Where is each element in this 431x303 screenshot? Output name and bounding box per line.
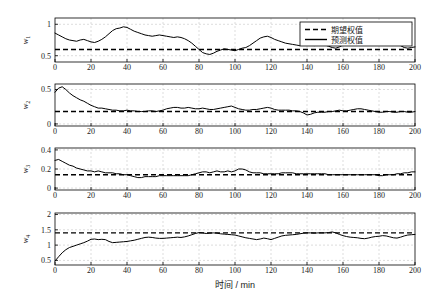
x-tick-label: 80	[195, 63, 203, 72]
x-tick-label: 20	[87, 266, 95, 275]
x-tick-label: 40	[123, 63, 131, 72]
x-tick-label: 80	[195, 266, 203, 275]
x-tick-label: 0	[53, 191, 57, 200]
panel-w2: 00.5020406080100120140160180200w2	[20, 84, 421, 136]
y-tick-label: 0.2	[41, 165, 51, 174]
x-tick-label: 100	[229, 127, 241, 136]
y-axis-label-w1: w1	[20, 36, 31, 45]
figure-container: 0.51020406080100120140160180200w100.5020…	[0, 0, 431, 303]
x-tick-label: 120	[265, 127, 277, 136]
x-tick-label: 20	[87, 191, 95, 200]
y-tick-label: 2	[47, 210, 51, 219]
x-tick-label: 60	[159, 127, 167, 136]
x-tick-label: 60	[159, 191, 167, 200]
x-tick-label: 80	[195, 127, 203, 136]
x-axis-label: 时间 / min	[215, 279, 255, 290]
x-tick-label: 80	[195, 191, 203, 200]
x-tick-label: 200	[409, 127, 421, 136]
y-tick-label: 0.5	[41, 52, 51, 61]
x-tick-label: 40	[123, 127, 131, 136]
y-tick-label: 0.4	[41, 146, 51, 155]
x-tick-label: 140	[301, 127, 313, 136]
x-tick-label: 160	[337, 191, 349, 200]
x-tick-label: 180	[373, 266, 385, 275]
x-tick-label: 40	[123, 266, 131, 275]
y-tick-label: 1.5	[41, 226, 51, 235]
x-tick-label: 200	[409, 266, 421, 275]
y-tick-label: 1	[47, 241, 51, 250]
x-tick-label: 0	[53, 63, 57, 72]
x-tick-label: 100	[229, 191, 241, 200]
x-tick-label: 60	[159, 63, 167, 72]
y-axis-label-w4: w4	[20, 235, 31, 244]
x-tick-label: 100	[229, 63, 241, 72]
x-tick-label: 160	[337, 63, 349, 72]
x-tick-label: 160	[337, 266, 349, 275]
multi-panel-weight-chart: 0.51020406080100120140160180200w100.5020…	[0, 0, 431, 303]
x-tick-label: 120	[265, 63, 277, 72]
x-tick-label: 200	[409, 63, 421, 72]
x-tick-label: 20	[87, 127, 95, 136]
x-tick-label: 180	[373, 63, 385, 72]
x-tick-label: 120	[265, 191, 277, 200]
x-tick-label: 200	[409, 191, 421, 200]
x-tick-label: 60	[159, 266, 167, 275]
y-tick-label: 0	[47, 184, 51, 193]
x-tick-label: 160	[337, 127, 349, 136]
x-tick-label: 40	[123, 191, 131, 200]
x-tick-label: 140	[301, 191, 313, 200]
y-tick-label: 0.5	[41, 85, 51, 94]
y-tick-label: 1	[47, 20, 51, 29]
x-tick-label: 0	[53, 266, 57, 275]
x-tick-label: 140	[301, 266, 313, 275]
x-tick-label: 180	[373, 191, 385, 200]
y-axis-label-w2: w2	[20, 101, 31, 110]
y-tick-label: 0.5	[41, 256, 51, 265]
y-tick-label: 0	[47, 120, 51, 129]
legend-label: 期望权值	[331, 25, 363, 35]
panel-w3: 00.20.4020406080100120140160180200w3	[20, 146, 421, 200]
x-tick-label: 20	[87, 63, 95, 72]
y-axis-label-w3: w3	[20, 165, 31, 174]
x-tick-label: 180	[373, 127, 385, 136]
legend-label: 预测权值	[331, 35, 363, 45]
x-tick-label: 0	[53, 127, 57, 136]
panel-w4: 0.511.52020406080100120140160180200w4	[20, 210, 421, 275]
x-tick-label: 120	[265, 266, 277, 275]
x-tick-label: 100	[229, 266, 241, 275]
legend: 期望权值预测权值	[300, 22, 412, 46]
x-tick-label: 140	[301, 63, 313, 72]
